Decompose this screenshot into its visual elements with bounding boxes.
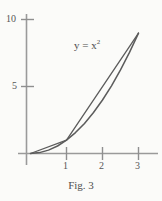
y-axis-tick-label-10: 10 (6, 14, 16, 24)
origin-segment-line (31, 140, 67, 153)
curve-equation-label: y = x2 (74, 40, 100, 51)
curve-equation-base: y = x (74, 39, 97, 51)
x-axis-tick-label-1: 1 (63, 161, 68, 171)
x-axis-tick-label-3: 3 (135, 161, 140, 171)
parabola-curve (31, 33, 139, 153)
curve-equation-exponent: 2 (97, 38, 101, 46)
figure-3-parabola-chart: 10 5 1 2 3 y = x2 Fig. 3 (0, 0, 162, 201)
x-axis-tick-label-2: 2 (99, 161, 104, 171)
figure-caption: Fig. 3 (0, 180, 162, 191)
y-axis-tick-label-5: 5 (12, 81, 17, 91)
